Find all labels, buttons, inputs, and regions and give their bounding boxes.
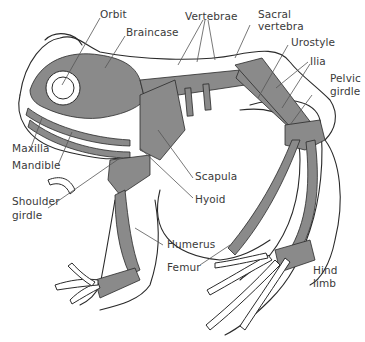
leader-vertebrae-2: [197, 20, 205, 62]
label-humerus: Humerus: [167, 238, 215, 250]
label-orbit: Orbit: [100, 8, 127, 20]
label-pelvic-girdle-line1: Pelvic: [330, 72, 361, 84]
label-shoulder-girdle-line1: Shoulder: [12, 195, 60, 207]
orbit-inner: [52, 77, 74, 99]
femur-bone: [228, 140, 300, 255]
label-sacral-vertebra-line1: Sacral: [258, 8, 291, 20]
label-pelvic-girdle-line2: girdle: [330, 85, 360, 97]
label-hind-limb-line1: Hind: [313, 264, 338, 276]
label-vertebrae: Vertebrae: [185, 10, 238, 22]
label-scapula: Scapula: [195, 170, 237, 182]
radioulna-bone: [95, 268, 140, 298]
label-hyoid: Hyoid: [195, 193, 226, 205]
label-ilia: Ilia: [310, 55, 326, 67]
shoulder-girdle-bone: [108, 155, 150, 195]
leader-vertebrae-1: [178, 20, 203, 65]
humerus-bone: [115, 190, 140, 275]
frog-skeleton-illustration: [0, 0, 365, 342]
label-hind-limb-line2: limb: [313, 277, 336, 289]
label-braincase: Braincase: [126, 26, 179, 38]
tibiofibula-bone: [292, 140, 317, 250]
label-maxilla: Maxilla: [12, 142, 50, 154]
label-femur: Femur: [167, 261, 201, 273]
label-urostyle: Urostyle: [291, 36, 335, 48]
frog-skeleton-diagram: Orbit Braincase Vertebrae Sacral vertebr…: [0, 0, 365, 342]
leader-vertebrae-3: [208, 20, 215, 60]
label-shoulder-girdle-line2: girdle: [12, 209, 42, 221]
label-sacral-vertebra-line2: vertebra: [258, 20, 304, 32]
finger: [48, 178, 75, 194]
label-mandible: Mandible: [12, 159, 61, 171]
